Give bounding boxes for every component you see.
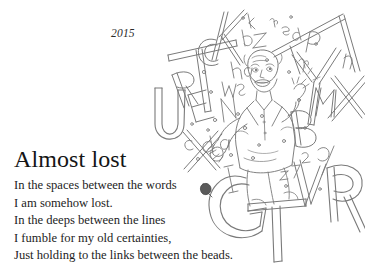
page-title: Almost lost [14, 146, 126, 173]
text-layer: 2015 Almost lost In the spaces between t… [0, 0, 365, 277]
poem-line: I am somehow lost. [14, 195, 233, 213]
poem-body: In the spaces between the words I am som… [14, 177, 233, 265]
poem-line: In the deeps between the lines [14, 212, 233, 230]
poem-line: In the spaces between the words [14, 177, 233, 195]
poem-line: Just holding to the links between the be… [14, 247, 233, 265]
year-label: 2015 [111, 27, 135, 39]
poem-page: 2015 Almost lost In the spaces between t… [0, 0, 365, 277]
poem-line: I fumble for my old certainties, [14, 230, 233, 248]
